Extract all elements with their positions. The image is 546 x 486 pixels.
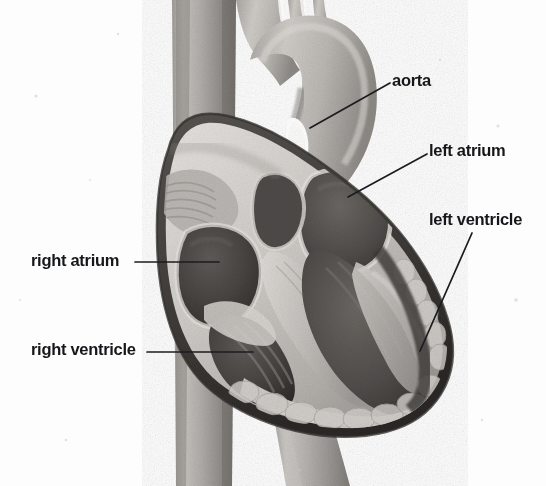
label-right-ventricle: right ventricle bbox=[31, 341, 136, 358]
heart-diagram-figure: aorta left atrium left ventricle right a… bbox=[0, 0, 546, 486]
label-right-atrium: right atrium bbox=[31, 252, 119, 269]
heart-illustration bbox=[0, 0, 546, 486]
label-left-atrium: left atrium bbox=[429, 142, 505, 159]
label-left-ventricle: left ventricle bbox=[429, 211, 522, 228]
label-aorta: aorta bbox=[392, 72, 431, 89]
